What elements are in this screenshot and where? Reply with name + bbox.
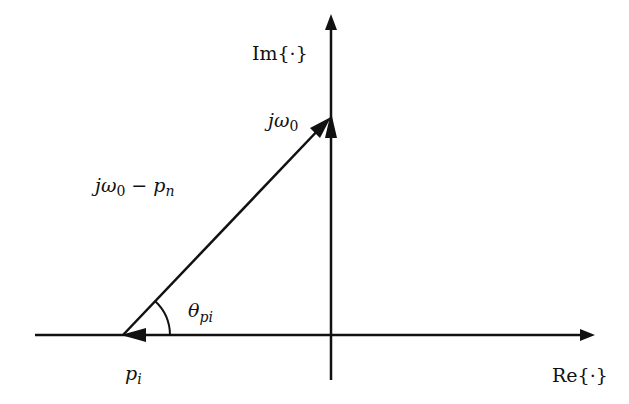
vector-label: jω0 − pn — [91, 174, 175, 199]
imag-axis-label: Im{·} — [252, 42, 308, 64]
angle-arc — [155, 301, 170, 335]
real-axis-arrow-icon — [580, 329, 595, 341]
pole-arrow-icon — [121, 328, 146, 342]
vector-pole-to-jw0 — [123, 126, 322, 335]
pole-label: pi — [125, 362, 142, 387]
angle-label: θpi — [188, 299, 213, 325]
pole-vector-diagram: Im{·} Re{·} jω0 jω0 − pn θpi pi — [0, 0, 629, 404]
jw0-label: jω0 — [264, 109, 298, 134]
real-axis-label: Re{·} — [552, 364, 608, 386]
imag-axis-arrow-icon — [325, 14, 337, 30]
